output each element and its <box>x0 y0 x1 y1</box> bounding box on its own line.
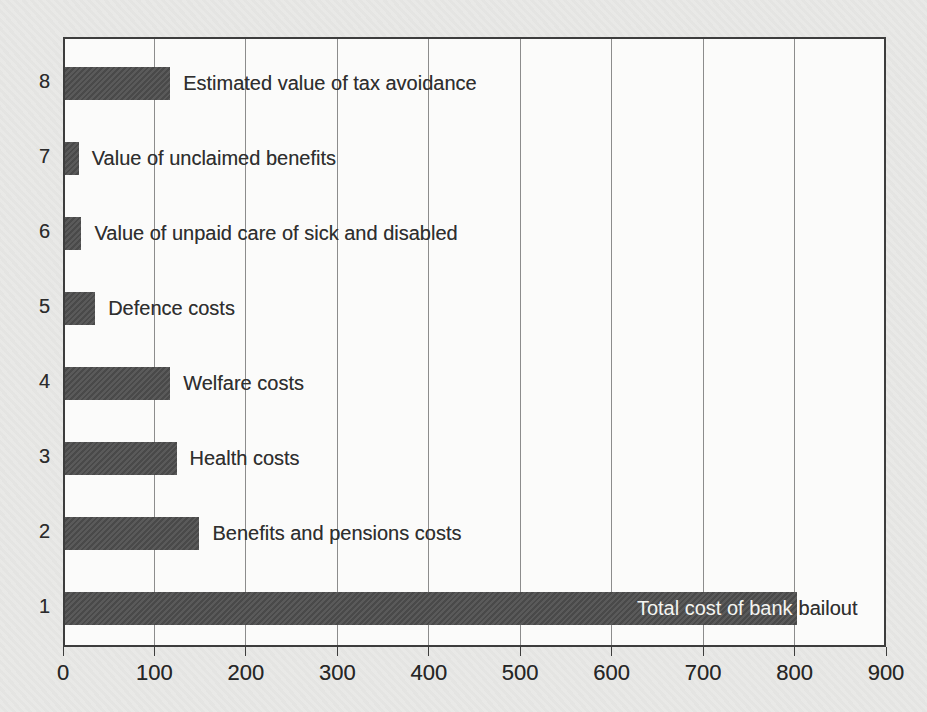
bar-label-3: Health costs <box>190 442 300 475</box>
gridline-800 <box>794 39 795 645</box>
category-number-1: 1 <box>0 590 50 623</box>
x-axis-tick-200 <box>245 647 246 656</box>
x-axis-tick-600 <box>611 647 612 656</box>
x-axis-tick-500 <box>520 647 521 656</box>
bar-category-8 <box>65 67 170 100</box>
bar-category-7 <box>65 142 79 175</box>
x-axis-label-100: 100 <box>136 660 173 686</box>
x-axis-label-700: 700 <box>685 660 722 686</box>
x-axis-label-300: 300 <box>319 660 356 686</box>
category-number-8: 8 <box>0 65 50 98</box>
category-number-2: 2 <box>0 515 50 548</box>
x-axis-tick-100 <box>154 647 155 656</box>
bar-category-6 <box>65 217 81 250</box>
bar-category-3 <box>65 442 177 475</box>
bar-category-2 <box>65 517 199 550</box>
x-axis-label-200: 200 <box>228 660 265 686</box>
gridline-500 <box>520 39 521 645</box>
bar-label-5: Defence costs <box>108 292 235 325</box>
category-number-7: 7 <box>0 140 50 173</box>
bar-label-8: Estimated value of tax avoidance <box>183 67 477 100</box>
x-axis-tick-700 <box>703 647 704 656</box>
x-axis-label-800: 800 <box>776 660 813 686</box>
gridline-600 <box>611 39 612 645</box>
gridline-300 <box>337 39 338 645</box>
bar-label-7: Value of unclaimed benefits <box>92 142 336 175</box>
bar-label-outside: bailout <box>793 592 858 625</box>
gridline-200 <box>245 39 246 645</box>
bar-label-2: Benefits and pensions costs <box>212 517 461 550</box>
gridline-400 <box>428 39 429 645</box>
scanned-bar-chart-page: Estimated value of tax avoidanceValue of… <box>0 0 927 712</box>
x-axis-tick-300 <box>337 647 338 656</box>
plot-area: Estimated value of tax avoidanceValue of… <box>63 37 886 647</box>
x-axis-label-900: 900 <box>868 660 905 686</box>
x-axis-tick-900 <box>886 647 887 656</box>
bar-label-inside: Total cost of bank <box>637 592 793 625</box>
bar-label-4: Welfare costs <box>183 367 304 400</box>
bar-label-6: Value of unpaid care of sick and disable… <box>94 217 457 250</box>
bar-category-4 <box>65 367 170 400</box>
x-axis-label-0: 0 <box>57 660 69 686</box>
category-number-4: 4 <box>0 365 50 398</box>
x-axis-tick-400 <box>428 647 429 656</box>
x-axis-tick-0 <box>63 647 64 656</box>
bar-category-5 <box>65 292 95 325</box>
gridline-100 <box>154 39 155 645</box>
x-axis-label-600: 600 <box>593 660 630 686</box>
gridline-700 <box>703 39 704 645</box>
x-axis-tick-800 <box>794 647 795 656</box>
category-number-3: 3 <box>0 440 50 473</box>
category-number-6: 6 <box>0 215 50 248</box>
x-axis-label-500: 500 <box>502 660 539 686</box>
category-number-5: 5 <box>0 290 50 323</box>
x-axis-label-400: 400 <box>410 660 447 686</box>
